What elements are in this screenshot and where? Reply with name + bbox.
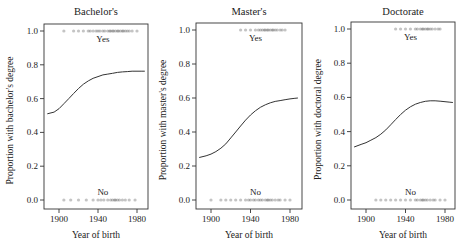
no-annotation: No [250,187,261,197]
y-tick-label: 1.0 [334,24,346,34]
no-annotation: No [97,187,108,197]
panel-title: Master's [231,6,266,17]
yes-annotation: Yes [96,34,110,44]
y-tick-label: 0.2 [179,161,190,171]
x-axis-label: Year of birth [379,230,427,240]
no-annotation: No [405,187,416,197]
y-tick-label: 1.0 [179,25,191,35]
x-tick-label: 1980 [436,214,455,224]
x-tick-label: 1940 [89,214,108,224]
y-tick-label: 0.4 [179,127,191,137]
x-tick-label: 1940 [397,214,416,224]
fitted-curve [199,98,298,158]
y-tick-label: 0.8 [334,58,346,68]
y-tick-label: 0.8 [179,59,191,69]
rug-points [374,27,446,201]
y-tick-label: 0.6 [27,94,39,104]
y-tick-label: 0.0 [179,195,191,205]
y-tick-label: 0.8 [27,60,39,70]
panel-doctorate: Doctorate0.00.20.40.60.81.0190019401980Y… [313,6,455,240]
panel-title: Doctorate [382,6,424,17]
y-tick-label: 0.6 [179,93,191,103]
x-axis-label: Year of birth [72,230,120,240]
x-tick-label: 1900 [357,214,376,224]
plot-frame [44,24,148,209]
x-tick-label: 1980 [281,214,300,224]
yes-annotation: Yes [249,33,263,43]
panel-bachelors: Bachelor's0.00.20.40.60.81.0190019401980… [5,6,148,240]
figure: Bachelor's0.00.20.40.60.81.0190019401980… [0,0,464,245]
x-tick-label: 1900 [202,214,221,224]
x-tick-label: 1980 [128,214,147,224]
rug-points [62,29,138,201]
y-axis-label: Proportion with doctoral degree [313,59,323,180]
y-tick-label: 0.4 [27,127,39,137]
yes-annotation: Yes [404,32,418,42]
panel-title: Bachelor's [74,6,118,17]
x-axis-label: Year of birth [225,230,273,240]
y-tick-label: 1.0 [27,26,39,36]
fitted-curve [47,71,145,114]
y-tick-label: 0.4 [334,127,346,137]
y-axis-label: Proportion with bachelor's degree [5,56,15,184]
y-axis-label: Proportion with master's degree [158,60,168,181]
y-tick-label: 0.2 [334,161,345,171]
panel-masters: Master's0.00.20.40.60.81.0190019401980Ye… [158,6,302,240]
plot-frame [351,22,455,209]
y-tick-label: 0.0 [27,195,39,205]
y-tick-label: 0.2 [27,161,38,171]
fitted-curve [354,101,453,147]
y-tick-label: 0.6 [334,92,346,102]
x-tick-label: 1940 [242,214,261,224]
x-tick-label: 1900 [50,214,69,224]
y-tick-label: 0.0 [334,195,346,205]
